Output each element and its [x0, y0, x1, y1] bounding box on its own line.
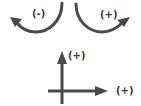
- sign-convention-diagram: (-) (+) (+) (+): [0, 0, 141, 106]
- horizontal-axis-label: (+): [116, 86, 134, 96]
- negative-rotation-label: (-): [32, 9, 45, 19]
- positive-rotation-label: (+): [100, 10, 118, 20]
- vertical-axis-arrow-icon: [57, 51, 67, 104]
- vertical-axis-label: (+): [68, 51, 86, 61]
- horizontal-axis-arrow-icon: [48, 86, 108, 96]
